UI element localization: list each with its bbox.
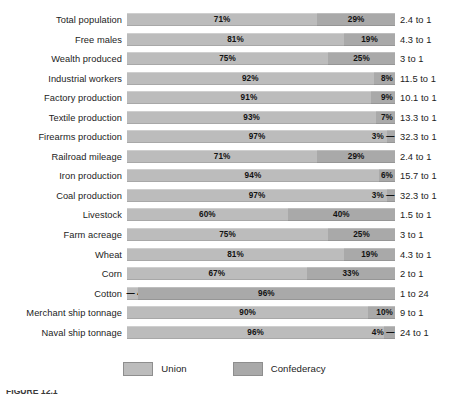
row-ratio-annotation: 9 to 1 <box>400 306 424 320</box>
bar-segment-confederacy-value: 25% <box>353 229 370 240</box>
union-swatch <box>123 362 153 376</box>
bar-segment-union-value: 91% <box>241 92 258 103</box>
bar-segment-confederacy: 9% <box>371 91 395 104</box>
bar-segment-union-value: 71% <box>214 151 231 162</box>
row-category-label: Firearms production <box>0 130 122 144</box>
row-category-label: Farm acreage <box>0 228 122 242</box>
bar-segment-confederacy: 96% <box>138 287 395 300</box>
row-category-label: Railroad mileage <box>0 150 122 164</box>
legend-item: Confederacy <box>233 362 326 376</box>
chart-row: Wealth produced75%25%3 to 1 <box>0 52 449 72</box>
bar-segment-confederacy: 19% <box>344 33 395 46</box>
bar-segment-confederacy: 29% <box>317 150 395 163</box>
bar-segment-union-value: 92% <box>242 73 259 84</box>
bar-segment-union-value: 97% <box>249 190 266 201</box>
row-category-label: Total population <box>0 13 122 27</box>
row-ratio-annotation: 4.3 to 1 <box>400 33 431 47</box>
chart-row: Livestock60%40%1.5 to 1 <box>0 208 449 228</box>
chart-rows: Total population71%29%2.4 to 1Free males… <box>0 13 449 345</box>
bar-segment-union: 97% <box>127 130 387 143</box>
stacked-bar: 93%7% <box>127 111 395 124</box>
bar-segment-union: 60% <box>127 208 288 221</box>
stacked-bar: 71%29% <box>127 13 395 26</box>
row-category-label: Corn <box>0 267 122 281</box>
chart-row: Corn67%33%2 to 1 <box>0 267 449 287</box>
bar-segment-confederacy: 3% — <box>387 130 395 143</box>
bar-segment-confederacy: 40% <box>288 208 395 221</box>
bar-segment-union-value: 97% <box>249 131 266 142</box>
row-ratio-annotation: 32.3 to 1 <box>400 130 437 144</box>
stacked-bar: 97%3% — <box>127 189 395 202</box>
bar-segment-confederacy: 25% <box>328 228 395 241</box>
bar-segment-union: 97% <box>127 189 387 202</box>
bar-segment-union: 81% <box>127 248 344 261</box>
chart-row: Factory production91%9%10.1 to 1 <box>0 91 449 111</box>
stacked-bar: — 4%96% <box>127 287 395 300</box>
bar-segment-union-value: 81% <box>227 34 244 45</box>
figure-container: Total population71%29%2.4 to 1Free males… <box>0 0 449 400</box>
chart-row: Free males81%19%4.3 to 1 <box>0 33 449 53</box>
bar-segment-confederacy: 7% <box>376 111 395 124</box>
bar-segment-confederacy: 6% <box>379 169 395 182</box>
bar-segment-confederacy-value: 25% <box>353 53 370 64</box>
bar-segment-union: 67% <box>127 267 307 280</box>
bar-segment-union-value: 90% <box>239 307 256 318</box>
row-ratio-annotation: 2.4 to 1 <box>400 150 431 164</box>
stacked-bar: 90%10% <box>127 306 395 319</box>
row-category-label: Industrial workers <box>0 72 122 86</box>
stacked-bar: 60%40% <box>127 208 395 221</box>
stacked-bar: 94%6% <box>127 169 395 182</box>
row-category-label: Free males <box>0 33 122 47</box>
bar-segment-union: 90% <box>127 306 368 319</box>
bar-segment-confederacy: 19% <box>344 248 395 261</box>
bar-segment-confederacy: 29% <box>317 13 395 26</box>
bar-segment-confederacy-value: 19% <box>361 249 378 260</box>
row-ratio-annotation: 1.5 to 1 <box>400 208 431 222</box>
bar-segment-union-value: 75% <box>219 53 236 64</box>
bar-segment-union-value: 71% <box>214 14 231 25</box>
row-category-label: Coal production <box>0 189 122 203</box>
bar-segment-confederacy-value: 3% — <box>372 190 395 201</box>
bar-segment-confederacy: 10% <box>368 306 395 319</box>
chart-row: Coal production97%3% —32.3 to 1 <box>0 189 449 209</box>
chart-row: Merchant ship tonnage90%10%9 to 1 <box>0 306 449 326</box>
bar-segment-union-value: 94% <box>245 170 262 181</box>
bar-segment-union: — 4% <box>127 287 138 300</box>
bar-segment-union: 71% <box>127 150 317 163</box>
stacked-bar: 81%19% <box>127 248 395 261</box>
row-category-label: Wheat <box>0 248 122 262</box>
row-ratio-annotation: 4.3 to 1 <box>400 248 431 262</box>
chart-row: Railroad mileage71%29%2.4 to 1 <box>0 150 449 170</box>
confederacy-swatch <box>233 362 263 376</box>
row-ratio-annotation: 10.1 to 1 <box>400 91 437 105</box>
row-category-label: Wealth produced <box>0 52 122 66</box>
bar-segment-confederacy-value: 6% <box>381 170 393 181</box>
figure-caption-text: FIGURE 12.1 <box>6 390 186 396</box>
bar-segment-union: 92% <box>127 72 374 85</box>
bar-segment-confederacy-value: 29% <box>348 151 365 162</box>
row-ratio-annotation: 11.5 to 1 <box>400 72 436 86</box>
chart-row: Iron production94%6%15.7 to 1 <box>0 169 449 189</box>
figure-caption: FIGURE 12.1 <box>6 390 186 400</box>
bar-segment-union: 75% <box>127 52 328 65</box>
row-category-label: Naval ship tonnage <box>0 326 122 340</box>
stacked-bar: 96%4% — <box>127 326 395 339</box>
stacked-bar: 91%9% <box>127 91 395 104</box>
row-category-label: Iron production <box>0 169 122 183</box>
bar-segment-union-value: 67% <box>208 268 225 279</box>
bar-segment-union-value: 93% <box>243 112 260 123</box>
row-ratio-annotation: 24 to 1 <box>400 326 429 340</box>
row-ratio-annotation: 2 to 1 <box>400 267 424 281</box>
row-ratio-annotation: 3 to 1 <box>400 52 424 66</box>
row-ratio-annotation: 13.3 to 1 <box>400 111 437 125</box>
row-ratio-annotation: 3 to 1 <box>400 228 424 242</box>
bar-segment-union-value: 96% <box>247 327 264 338</box>
stacked-bar: 92%8% <box>127 72 395 85</box>
stacked-bar: 75%25% <box>127 52 395 65</box>
bar-segment-union-value: 75% <box>219 229 236 240</box>
bar-segment-confederacy-value: 9% <box>381 92 393 103</box>
legend-label: Union <box>161 363 186 375</box>
stacked-bar: 75%25% <box>127 228 395 241</box>
bar-segment-union: 71% <box>127 13 317 26</box>
legend-item: Union <box>123 362 186 376</box>
